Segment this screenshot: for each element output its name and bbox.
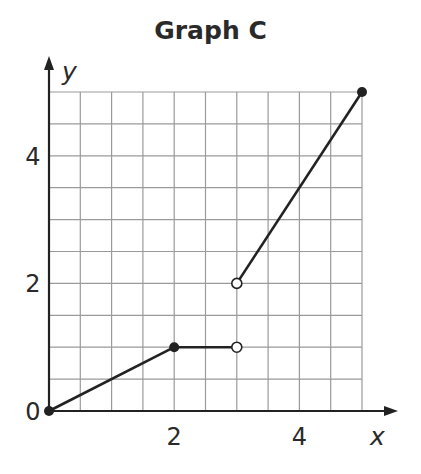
open-point-icon [232, 342, 242, 352]
grid-lines [49, 92, 362, 411]
x-tick-label: 4 [292, 423, 307, 451]
plot-area: 02424 x y [0, 0, 421, 474]
closed-point-icon [169, 342, 179, 352]
x-tick-label: 0 [25, 398, 40, 426]
y-tick-label: 4 [25, 143, 40, 171]
y-tick-label: 2 [25, 270, 40, 298]
x-axis-label: x [369, 422, 385, 451]
x-axis-arrow-icon [384, 406, 398, 416]
closed-point-icon [357, 87, 367, 97]
open-point-icon [232, 278, 242, 288]
tick-labels: 02424 [25, 143, 307, 451]
axes [44, 56, 398, 416]
closed-point-icon [44, 406, 54, 416]
x-tick-label: 2 [167, 423, 182, 451]
y-axis-arrow-icon [44, 56, 54, 70]
y-axis-label: y [61, 57, 78, 86]
